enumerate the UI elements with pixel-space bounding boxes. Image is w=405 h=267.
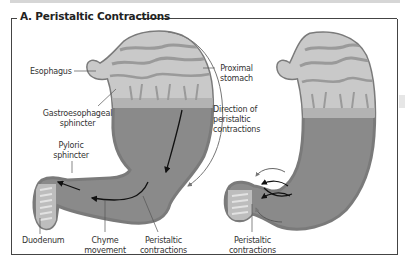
label-pyloric-sphincter: Pyloric sphincter [46,141,96,161]
label-gastroesophageal-sphincter: Gastroesophageal sphincter [40,109,115,129]
label-peristaltic-contractions-right: Peristaltic contractions [225,236,280,256]
label-peristaltic-contractions-left: Peristaltic contractions [136,236,191,256]
label-direction-of-peristaltic-contractions: Direction of peristaltic contractions [213,105,260,135]
label-proximal-stomach: Proximal stomach [214,64,259,84]
stomach-illustration [0,0,405,267]
label-chyme-movement: Chyme movement [80,236,130,256]
label-esophagus: Esophagus [30,67,72,77]
label-duodenum: Duodenum [22,236,64,246]
